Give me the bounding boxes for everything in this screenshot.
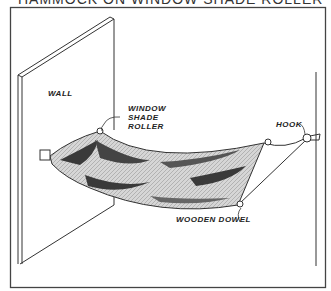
label-hook: HOOK — [276, 120, 302, 130]
hook — [303, 134, 320, 142]
hammock-fabric — [50, 131, 264, 209]
hammock-illustration — [0, 0, 331, 291]
label-wooden-dowel: WOODEN DOWEL — [176, 215, 251, 225]
label-roller-3: ROLLER — [128, 122, 164, 132]
label-wall: WALL — [48, 89, 73, 99]
